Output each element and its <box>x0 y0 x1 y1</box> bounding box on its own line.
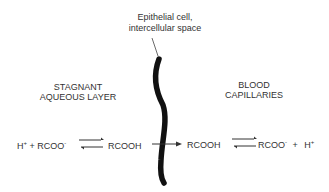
left-anion: RCOO <box>37 141 64 151</box>
diagram-graphics <box>0 0 329 192</box>
left-acid: RCOOH <box>108 141 142 151</box>
right-proton-charge: + <box>311 139 315 145</box>
membrane-curve <box>156 59 165 183</box>
right-plus: + <box>293 140 298 150</box>
right-equation-products: RCOO- + H+ <box>258 140 314 150</box>
right-anion: RCOO <box>258 140 285 150</box>
left-anion-charge: - <box>64 140 66 146</box>
right-anion-charge: - <box>285 139 287 145</box>
left-plus: + <box>30 141 35 151</box>
transport-arrow <box>152 142 182 147</box>
left-proton-charge: + <box>24 140 28 146</box>
left-equation-reactants: H+ + RCOO- <box>17 141 66 151</box>
right-equilibrium-arrows <box>232 137 257 149</box>
right-acid: RCOOH <box>187 140 221 150</box>
leader-line <box>152 38 158 56</box>
left-equilibrium-arrows <box>79 43 104 150</box>
